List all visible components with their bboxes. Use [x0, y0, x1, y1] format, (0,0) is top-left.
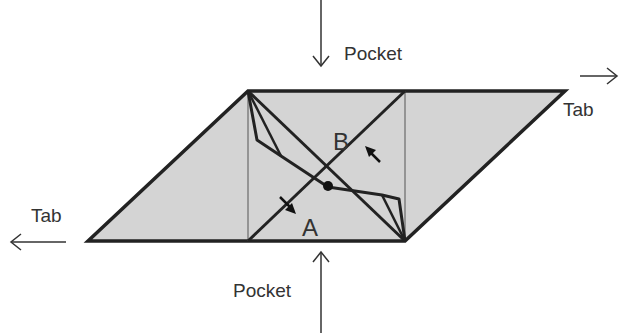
tab-left-label: Tab: [31, 205, 62, 226]
pocket-bottom-label: Pocket: [233, 280, 292, 301]
pocket-top-arrow-icon: [313, 0, 329, 66]
tab-right-arrow-icon: [580, 68, 617, 84]
region-a-label: A: [302, 214, 318, 241]
pocket-top-label: Pocket: [344, 43, 403, 64]
tab-left-arrow-icon: [11, 234, 66, 250]
pocket-bottom-arrow-icon: [313, 252, 329, 333]
tab-right-label: Tab: [563, 99, 594, 120]
center-dot: [323, 181, 333, 191]
origami-diagram: Pocket Pocket Tab Tab B A: [0, 0, 621, 333]
region-b-label: B: [333, 128, 349, 155]
